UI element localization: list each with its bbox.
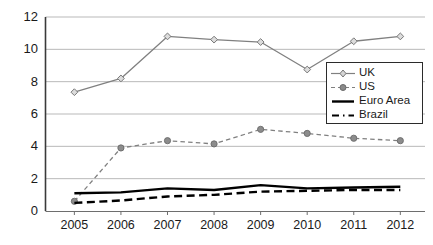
legend-symbol-euro-area-solid-line-icon <box>330 94 356 107</box>
y-tick-label: 0 <box>14 204 38 217</box>
data-point-marker <box>211 36 218 43</box>
data-point-marker <box>304 130 310 136</box>
legend-item-brazil[interactable]: Brazil <box>327 107 422 121</box>
x-tick-label: 2012 <box>377 219 423 232</box>
y-tick-label: 2 <box>14 172 38 185</box>
legend-label-uk: UK <box>356 66 375 78</box>
data-point-marker <box>118 145 124 151</box>
x-tick-label: 2011 <box>331 219 377 232</box>
y-tick-label: 10 <box>14 42 38 55</box>
legend-item-euro-area[interactable]: Euro Area <box>327 93 422 107</box>
legend-symbol-brazil-dashed-line-icon <box>330 108 356 121</box>
data-point-marker <box>164 138 170 144</box>
y-tick-label: 12 <box>14 10 38 23</box>
x-tick-label: 2008 <box>191 219 237 232</box>
legend-label-brazil: Brazil <box>356 108 388 120</box>
legend-item-us[interactable]: US <box>327 79 422 93</box>
y-tick-label: 4 <box>14 139 38 152</box>
x-tick-label: 2005 <box>51 219 97 232</box>
x-tick-label: 2007 <box>144 219 190 232</box>
data-point-marker <box>351 135 357 141</box>
legend-symbol-uk-line-open-diamond-icon <box>330 66 356 79</box>
y-tick-label: 8 <box>14 75 38 88</box>
data-point-marker <box>397 138 403 144</box>
data-point-marker <box>397 33 404 40</box>
y-tick-label: 6 <box>14 107 38 120</box>
legend-label-euro-area: Euro Area <box>356 94 410 106</box>
data-point-marker <box>71 89 78 96</box>
x-tick-label: 2009 <box>238 219 284 232</box>
legend-label-us: US <box>356 80 375 92</box>
x-tick-label: 2006 <box>98 219 144 232</box>
x-tick-label: 2010 <box>284 219 330 232</box>
legend-symbol-us-dashed-filled-circle-icon <box>330 80 356 93</box>
data-point-marker <box>258 126 264 132</box>
data-point-marker <box>211 141 217 147</box>
data-point-marker <box>257 39 264 46</box>
chart-container: 024681012 200520062007200820092010201120… <box>0 0 433 245</box>
data-point-marker <box>304 66 311 73</box>
legend-item-uk[interactable]: UK <box>327 65 422 79</box>
chart-legend[interactable]: UK US Euro Area <box>326 62 423 124</box>
data-point-marker <box>350 38 357 45</box>
